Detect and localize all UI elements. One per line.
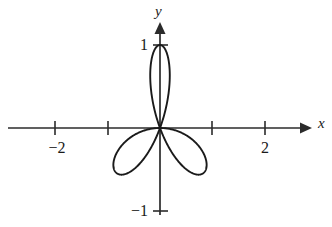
y-axis-label: y xyxy=(155,4,162,19)
x-tick-label-minus2: −2 xyxy=(42,140,72,156)
x-axis-label: x xyxy=(318,116,325,131)
x-tick-label-2: 2 xyxy=(252,140,278,156)
plot-canvas xyxy=(0,0,332,227)
polar-rose-figure: x y −2 2 1 −1 xyxy=(0,0,332,227)
y-axis-arrowhead xyxy=(155,22,166,34)
x-axis-arrowhead xyxy=(300,123,312,134)
y-tick-label-1: 1 xyxy=(130,37,148,53)
y-tick-label-minus1: −1 xyxy=(110,203,148,219)
